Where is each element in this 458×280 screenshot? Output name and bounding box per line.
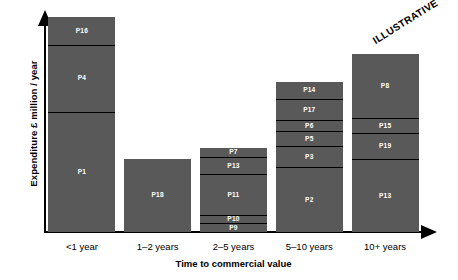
bar-segment-label: P7	[229, 149, 237, 156]
bar-segment-label: P11	[228, 192, 240, 199]
bar-segment[interactable]: P10	[200, 215, 267, 224]
bar-segment[interactable]: P4	[48, 45, 115, 112]
bar-segment[interactable]: P8	[352, 54, 419, 119]
bar-segment-label: P18	[152, 192, 164, 199]
bar-segment-label: P10	[227, 216, 239, 223]
bar-segment[interactable]: P17	[276, 99, 343, 121]
bar-segment-label: P17	[303, 107, 315, 114]
bar-segment-label: P16	[76, 28, 88, 35]
bar-segment-label: P4	[78, 75, 86, 82]
y-axis-title: Expenditure £ million / year	[28, 29, 39, 219]
x-axis-tick-label: 5–10 years	[271, 241, 347, 252]
x-axis-tick-label: 1–2 years	[120, 241, 196, 252]
bar-segment-label: P8	[381, 83, 389, 90]
bar-segment[interactable]: P6	[276, 120, 343, 131]
bar-segment-label: P9	[229, 225, 237, 232]
bar-4[interactable]: P14P17P6P5P3P2	[276, 82, 343, 233]
bar-segment-label: P13	[379, 193, 391, 200]
bar-segment-label: P6	[305, 123, 313, 130]
x-axis-tick-label: 2–5 years	[196, 241, 272, 252]
bar-segment-label: P1	[78, 169, 86, 176]
bar-segment-label: P5	[305, 136, 313, 143]
plot-area: P16P4P1P18P7P13P11P10P9P14P17P6P5P3P2P8P…	[44, 0, 423, 232]
chart-canvas: Expenditure £ million / year Time to com…	[0, 0, 458, 280]
bar-5[interactable]: P8P15P19P13	[352, 54, 419, 232]
x-axis-tick-label: <1 year	[44, 241, 120, 252]
bar-segment-label: P14	[303, 87, 315, 94]
bar-segment[interactable]: P16	[48, 17, 115, 45]
bar-1[interactable]: P16P4P1	[48, 17, 115, 232]
x-axis-tick-label: 10+ years	[347, 241, 423, 252]
bar-segment[interactable]: P5	[276, 131, 343, 146]
bar-segment[interactable]: P14	[276, 82, 343, 99]
bar-2[interactable]: P18	[124, 159, 191, 232]
bar-segment[interactable]: P7	[200, 148, 267, 157]
bar-segment-label: P2	[305, 197, 313, 204]
x-axis-title: Time to commercial value	[44, 258, 423, 269]
x-axis-arrow-icon	[421, 225, 437, 239]
bar-segment[interactable]: P19	[352, 133, 419, 159]
bar-segment[interactable]: P2	[276, 167, 343, 232]
bar-segment[interactable]: P11	[200, 174, 267, 215]
bar-segment-label: P13	[227, 163, 239, 170]
bar-segment-label: P3	[305, 154, 313, 161]
bar-segment[interactable]: P3	[276, 146, 343, 168]
bar-segment[interactable]: P13	[352, 159, 419, 232]
bar-segment-label: P15	[379, 123, 391, 130]
bar-segment[interactable]: P1	[48, 112, 115, 232]
bar-3[interactable]: P7P13P11P10P9	[200, 148, 267, 232]
bar-segment[interactable]: P13	[200, 157, 267, 174]
bar-segment[interactable]: P15	[352, 118, 419, 133]
bar-segment-label: P19	[379, 143, 391, 150]
bar-segment[interactable]: P9	[200, 223, 267, 232]
bar-segment[interactable]: P18	[124, 159, 191, 232]
